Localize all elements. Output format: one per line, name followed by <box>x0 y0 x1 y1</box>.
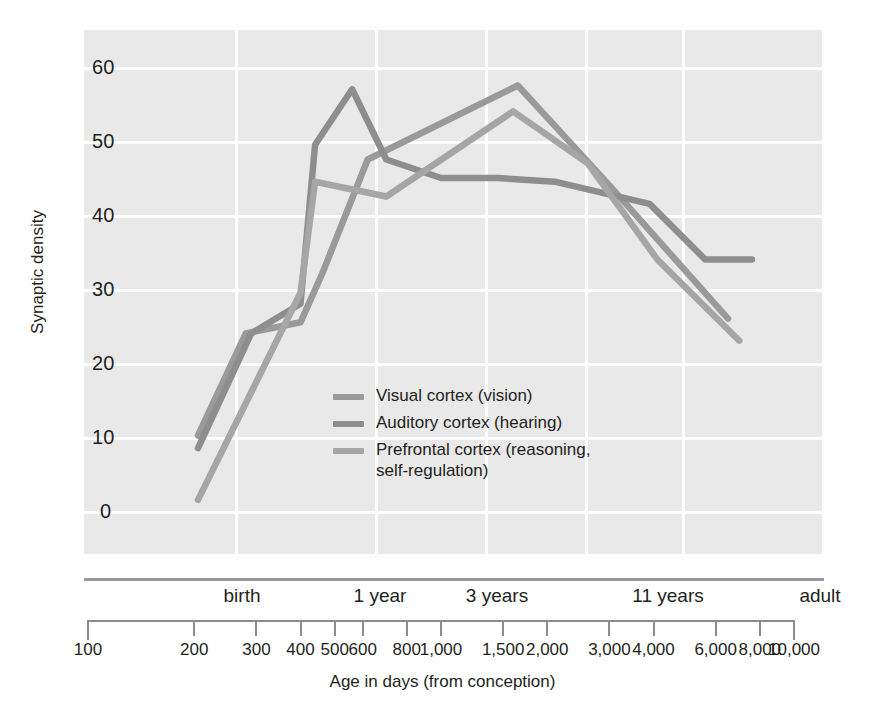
ruler-tick-6000 <box>715 620 717 636</box>
ruler-tick-3000 <box>608 620 610 636</box>
ruler-tick-300 <box>255 620 257 636</box>
y-tick-label-60: 60 <box>92 56 115 79</box>
ruler-number-3000: 3,000 <box>588 640 631 660</box>
ruler-tick-10000 <box>793 620 795 640</box>
y-tick-label-30: 30 <box>92 278 115 301</box>
synaptic-density-chart: 60 50 40 30 20 10 0 Synaptic density Vis… <box>0 0 885 726</box>
x-stage-label-birth: birth <box>224 585 261 607</box>
y-tick-label-10: 10 <box>92 426 115 449</box>
x-stage-label-1-year: 1 year <box>354 585 407 607</box>
y-tick-label-20: 20 <box>92 352 115 375</box>
ruler-tick-400 <box>300 620 302 636</box>
ruler-number-6000: 6,000 <box>694 640 737 660</box>
ruler-tick-600 <box>362 620 364 636</box>
legend-label-visual: Visual cortex (vision) <box>376 385 533 406</box>
y-tick-label-50: 50 <box>92 130 115 153</box>
gridline-horizontal-50 <box>84 141 822 144</box>
legend-label-prefrontal: Prefrontal cortex (reasoning,self-regula… <box>376 439 591 481</box>
ruler-tick-200 <box>193 620 195 636</box>
ruler-number-200: 200 <box>180 640 208 660</box>
legend-swatch-icon-prefrontal <box>333 448 364 454</box>
legend: Visual cortex (vision) Auditory cortex (… <box>333 385 633 487</box>
legend-label-prefrontal-line2: self-regulation) <box>376 460 591 481</box>
gridline-horizontal-0 <box>84 511 822 514</box>
ruler-number-600: 600 <box>348 640 376 660</box>
x-stage-label-3-years: 3 years <box>466 585 528 607</box>
y-axis-title: Synaptic density <box>28 172 48 372</box>
ruler-number-10000: 10,000 <box>768 640 820 660</box>
legend-swatch-icon-auditory <box>333 421 364 427</box>
legend-label-prefrontal-line1: Prefrontal cortex (reasoning, <box>376 440 591 459</box>
ruler-tick-100 <box>87 620 89 640</box>
x-axis-title: Age in days (from conception) <box>0 672 885 692</box>
legend-item-prefrontal-cortex: Prefrontal cortex (reasoning,self-regula… <box>333 439 633 481</box>
ruler-tick-4000 <box>653 620 655 636</box>
ruler-tick-1000 <box>440 620 442 636</box>
gridline-vertical-11-years <box>682 30 685 554</box>
y-tick-label-40: 40 <box>92 204 115 227</box>
legend-swatch-icon-visual <box>333 394 364 400</box>
ruler-number-2000: 2,000 <box>526 640 569 660</box>
ruler-number-4000: 4,000 <box>632 640 675 660</box>
ruler-tick-800 <box>406 620 408 636</box>
ruler-tick-1500 <box>502 620 504 636</box>
ruler-tick-2000 <box>546 620 548 636</box>
gridline-vertical-birth <box>235 30 238 554</box>
ruler-number-1500: 1,500 <box>482 640 525 660</box>
legend-item-auditory-cortex: Auditory cortex (hearing) <box>333 412 633 433</box>
gridline-horizontal-30 <box>84 289 822 292</box>
gridline-horizontal-40 <box>84 215 822 218</box>
ruler-tick-8000 <box>759 620 761 636</box>
ruler-number-500: 500 <box>321 640 349 660</box>
ruler-number-400: 400 <box>286 640 314 660</box>
x-stage-label-adult: adult <box>799 585 840 607</box>
y-tick-label-0: 0 <box>100 500 111 523</box>
ruler-number-1000: 1,000 <box>420 640 463 660</box>
gridline-horizontal-20 <box>84 363 822 366</box>
ruler-number-100: 100 <box>74 640 102 660</box>
legend-item-visual-cortex: Visual cortex (vision) <box>333 385 633 406</box>
log-scale-ruler: 1002003004005006008001,0001,5002,0003,00… <box>0 620 885 670</box>
ruler-number-300: 300 <box>242 640 270 660</box>
ruler-number-800: 800 <box>393 640 421 660</box>
ruler-tick-500 <box>334 620 336 636</box>
gridline-horizontal-60 <box>84 67 822 70</box>
x-stage-label-11-years: 11 years <box>632 585 703 607</box>
x-axis-baseline <box>84 578 824 581</box>
legend-label-auditory: Auditory cortex (hearing) <box>376 412 562 433</box>
